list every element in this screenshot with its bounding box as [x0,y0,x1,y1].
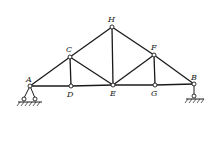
member-AC [30,57,70,86]
joint-D [69,84,73,88]
member-HE [112,27,113,85]
member-FG [154,55,155,85]
member-CD [70,57,71,86]
label-D: D [66,90,74,99]
joint-F [152,53,156,57]
label-F: F [150,43,157,52]
member-CE [70,57,113,85]
roller-support-B [185,84,204,103]
label-E: E [109,89,116,98]
member-FE [113,55,154,85]
member-CH [70,27,112,57]
member-HF [112,27,154,55]
label-A: A [25,75,32,84]
joint-E [111,83,115,87]
joint-H [110,25,114,29]
joint-B [192,82,196,86]
member-GB [155,84,194,85]
truss-diagram: A B C D E F G H [0,0,218,141]
pin-support-A [17,86,42,106]
member-FB [154,55,194,84]
label-C: C [66,45,72,54]
truss-members [30,27,194,86]
member-DE [71,85,113,86]
label-B: B [190,73,197,82]
joint-C [68,55,72,59]
label-G: G [151,89,158,98]
joint-A [28,84,32,88]
label-H: H [107,15,116,24]
joint-G [153,83,157,87]
